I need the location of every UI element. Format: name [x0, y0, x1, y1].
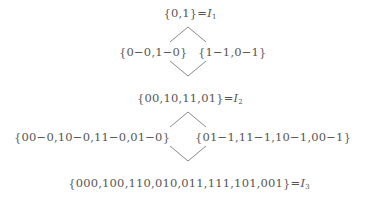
- level2-eq: =: [224, 91, 234, 105]
- level1-sub: 1: [212, 13, 217, 21]
- level2-equation: {00,10,11,01}=I2: [137, 91, 243, 109]
- level3-sub: 3: [305, 183, 310, 191]
- level1-set: {0,1}: [163, 6, 197, 20]
- level1-eq: =: [197, 6, 207, 20]
- branch-down-2: [170, 146, 206, 161]
- level3-set: {000,100,110,010,011,111,101,001}: [68, 176, 290, 190]
- level2-set: {00,10,11,01}: [137, 91, 224, 105]
- split1-left: {0−0,1−0}: [119, 45, 188, 59]
- level3-eq: =: [291, 176, 301, 190]
- branch-down-1: [170, 61, 206, 76]
- split2-left: {00−0,10−0,11−0,01−0}: [14, 130, 170, 144]
- level2-sub: 2: [238, 98, 243, 106]
- level1-equation: {0,1}=I1: [163, 6, 216, 24]
- split1-right: {1−1,0−1}: [198, 45, 267, 59]
- branch-up-2: [170, 112, 206, 127]
- branch-up-1: [170, 27, 206, 42]
- split2-right: {01−1,11−1,10−1,00−1}: [195, 130, 351, 144]
- level3-equation: {000,100,110,010,011,111,101,001}=I3: [68, 176, 310, 194]
